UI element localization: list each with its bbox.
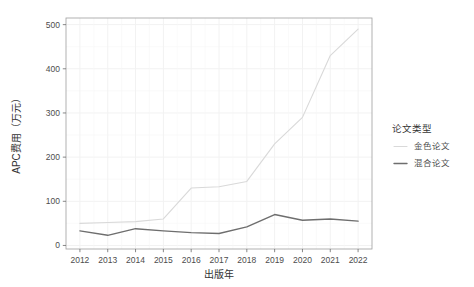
legend-key-background: [393, 157, 408, 172]
y-axis-title: APC费用（万元）: [10, 93, 22, 174]
x-axis-tick-label: 2014: [126, 255, 145, 265]
x-axis-tick-label: 2013: [98, 255, 117, 265]
apc-cost-line-chart: 0100200300400500201220132014201520162017…: [0, 0, 474, 287]
y-axis-tick-label: 200: [46, 152, 60, 162]
y-axis: 0100200300400500: [46, 20, 66, 251]
y-axis-tick-label: 0: [55, 240, 60, 250]
x-axis-tick-label: 2012: [70, 255, 89, 265]
chart-container: 0100200300400500201220132014201520162017…: [0, 0, 474, 287]
legend-item-label: 混合论文: [414, 158, 450, 168]
legend-title: 论文类型: [392, 123, 432, 134]
legend-key-background: [393, 140, 408, 155]
x-axis: 2012201320142015201620172018201920202021…: [70, 249, 367, 265]
legend-item-金色论文[interactable]: 金色论文: [393, 140, 450, 155]
y-axis-tick-label: 500: [46, 20, 60, 30]
y-axis-tick-label: 400: [46, 64, 60, 74]
y-axis-tick-label: 300: [46, 108, 60, 118]
x-axis-tick-label: 2016: [182, 255, 201, 265]
x-axis-title: 出版年: [204, 268, 234, 280]
legend: 论文类型金色论文混合论文: [392, 123, 450, 172]
x-axis-tick-label: 2018: [237, 255, 256, 265]
x-axis-tick-label: 2017: [210, 255, 229, 265]
x-axis-tick-label: 2019: [265, 255, 284, 265]
legend-item-label: 金色论文: [414, 141, 450, 151]
x-axis-tick-label: 2015: [154, 255, 173, 265]
legend-item-混合论文[interactable]: 混合论文: [393, 157, 450, 172]
x-axis-tick-label: 2020: [293, 255, 312, 265]
x-axis-tick-label: 2022: [349, 255, 368, 265]
y-axis-tick-label: 100: [46, 196, 60, 206]
x-axis-tick-label: 2021: [321, 255, 340, 265]
